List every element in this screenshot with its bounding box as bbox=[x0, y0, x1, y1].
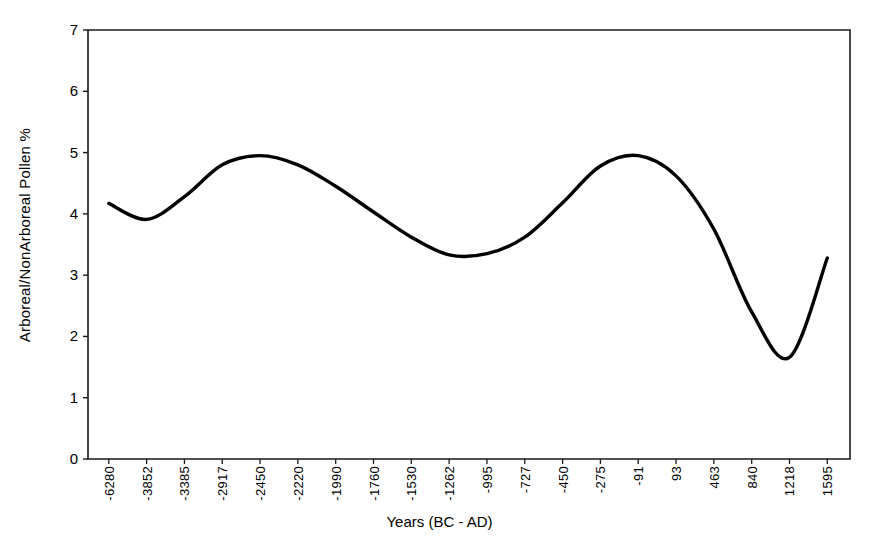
axis-frame bbox=[88, 30, 850, 459]
data-series-line bbox=[109, 155, 828, 358]
pollen-ratio-line-chart: Arboreal/NonArboreal Pollen % 01234567 -… bbox=[0, 0, 879, 555]
axis-tick-marks bbox=[83, 30, 827, 464]
plot-area bbox=[0, 0, 879, 555]
x-axis-title: Years (BC - AD) bbox=[0, 513, 879, 530]
